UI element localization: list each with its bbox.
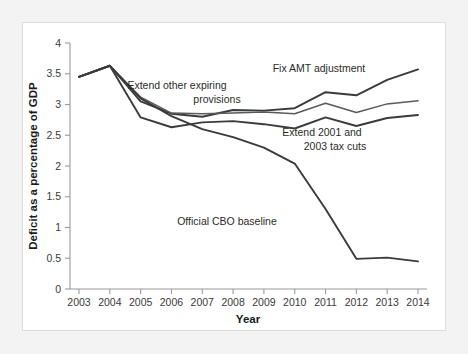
series-annotation: 2003 tax cuts: [304, 140, 366, 152]
x-tick-label: 2003: [67, 296, 91, 308]
data-series-group: [79, 66, 418, 262]
x-tick-label: 2010: [283, 296, 307, 308]
x-tick-label: 2013: [376, 296, 400, 308]
x-tick-label: 2005: [129, 296, 153, 308]
figure-root: 00.511.522.533.54 Deficit as a percentag…: [0, 0, 468, 354]
y-axis: 00.511.522.533.54 Deficit as a percentag…: [27, 37, 70, 295]
x-tick-label: 2009: [252, 296, 276, 308]
x-tick-labels: 2003200420052006200720082009201020112012…: [67, 296, 430, 308]
chart-panel: 00.511.522.533.54 Deficit as a percentag…: [22, 22, 446, 331]
annotation-group: Fix AMT adjustmentExtend other expiringp…: [127, 62, 366, 227]
x-tick-label: 2012: [345, 296, 369, 308]
x-axis: 2003200420052006200720082009201020112012…: [67, 289, 430, 325]
y-tick-label: 2: [55, 160, 61, 172]
x-tick-label: 2007: [191, 296, 215, 308]
x-tick-label: 2006: [160, 296, 184, 308]
x-tick-label: 2008: [221, 296, 245, 308]
series-annotation: Official CBO baseline: [177, 215, 277, 227]
y-tick-labels: 00.511.522.533.54: [46, 37, 61, 295]
x-tick-label: 2004: [98, 296, 122, 308]
y-tick-label: 2.5: [46, 129, 61, 141]
deficit-line-chart: 00.511.522.533.54 Deficit as a percentag…: [23, 23, 445, 330]
x-tick-label: 2011: [314, 296, 337, 308]
series-annotation: Fix AMT adjustment: [273, 62, 366, 74]
y-tick-label: 0.5: [46, 252, 61, 264]
series-line-official-cbo-baseline: [79, 66, 418, 262]
y-tick-label: 1.5: [46, 190, 61, 202]
y-tick-label: 3: [55, 98, 61, 110]
x-tick-label: 2014: [406, 296, 430, 308]
series-annotation: provisions: [193, 93, 240, 105]
y-tick-label: 0: [55, 283, 61, 295]
y-tick-marks: [65, 43, 70, 289]
y-tick-label: 4: [55, 37, 61, 49]
series-line-extend-2001-and-2003-tax-cuts: [79, 66, 418, 129]
y-tick-label: 3.5: [46, 67, 61, 79]
y-axis-title: Deficit as a percentage of GDP: [27, 82, 39, 250]
series-annotation: Extend 2001 and: [282, 126, 362, 138]
y-tick-label: 1: [55, 221, 61, 233]
x-tick-marks: [79, 289, 418, 294]
series-annotation: Extend other expiring: [127, 79, 226, 91]
x-axis-title: Year: [236, 313, 261, 325]
